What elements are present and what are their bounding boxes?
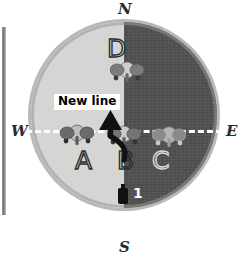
figure-panel: N S W E (0, 0, 248, 260)
observer-marker-icon (118, 184, 128, 204)
observer-marker-label: 1 (133, 186, 143, 200)
compass-label-north: N (118, 2, 132, 17)
zone-label-d: D (107, 36, 126, 61)
new-line-callout: New line (54, 94, 120, 110)
zone-label-c: C (152, 148, 169, 173)
compass-label-south: S (119, 240, 130, 255)
adjacent-panel-edge (2, 27, 6, 215)
elephant-icon-c (152, 126, 186, 148)
observer-marker-body (118, 188, 128, 204)
arena-dark-half (124, 22, 217, 208)
compass-label-east: E (226, 124, 237, 139)
curved-up-arrow-icon (84, 108, 136, 166)
elephant-icon-d (110, 61, 144, 83)
